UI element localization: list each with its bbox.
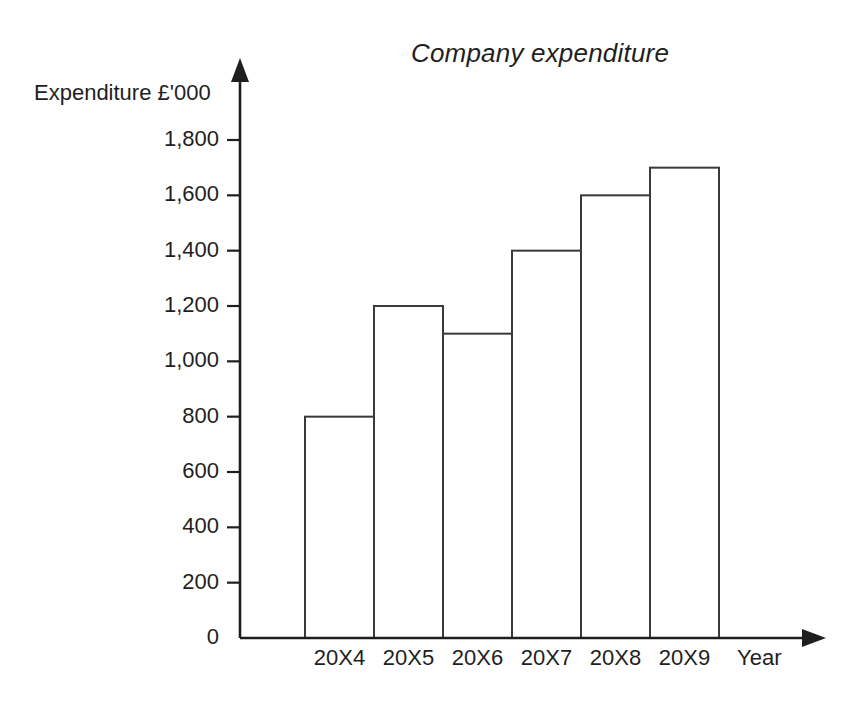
y-tick-label: 1,200	[127, 292, 219, 318]
bar-20X4	[305, 417, 374, 638]
bar-20X5	[374, 306, 443, 638]
y-axis-arrow-icon	[231, 58, 249, 82]
x-tick-label-20X9: 20X9	[640, 645, 730, 671]
y-tick-label: 1,800	[127, 126, 219, 152]
y-tick-label: 1,600	[127, 181, 219, 207]
y-tick-label: 800	[127, 403, 219, 429]
y-tick-label: 1,400	[127, 237, 219, 263]
y-tick-label: 600	[127, 458, 219, 484]
bar-20X6	[443, 334, 512, 638]
bar-20X8	[581, 195, 650, 638]
y-tick-label: 0	[127, 624, 219, 650]
y-tick-marks	[227, 140, 240, 583]
y-tick-label: 200	[127, 569, 219, 595]
bars-group	[305, 168, 719, 638]
x-axis-arrow-icon	[802, 629, 826, 647]
y-tick-label: 400	[127, 513, 219, 539]
y-tick-label: 1,000	[127, 347, 219, 373]
bar-20X7	[512, 251, 581, 638]
chart-figure: Company expenditure Expenditure £'000 Ye…	[0, 0, 859, 712]
bar-20X9	[650, 168, 719, 638]
